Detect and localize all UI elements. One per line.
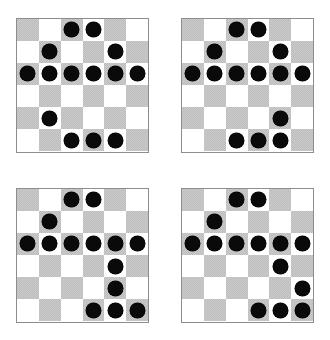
square-r2-c2[interactable]	[204, 41, 226, 63]
square-r5-c2[interactable]	[39, 107, 61, 129]
square-r4-c4[interactable]	[248, 255, 270, 277]
square-r4-c6[interactable]	[126, 255, 148, 277]
square-r3-c5[interactable]	[104, 63, 126, 85]
square-r4-c5[interactable]	[104, 85, 126, 107]
square-r6-c4[interactable]	[83, 299, 105, 321]
black-checker-piece[interactable]	[251, 22, 266, 37]
board-bottom-right[interactable]	[181, 188, 314, 323]
square-r3-c6[interactable]	[126, 233, 148, 255]
board-bottom-left[interactable]	[16, 188, 149, 323]
square-r3-c4[interactable]	[83, 63, 105, 85]
square-r5-c2[interactable]	[39, 277, 61, 299]
square-r4-c3[interactable]	[226, 255, 248, 277]
square-r6-c2[interactable]	[39, 129, 61, 151]
square-r2-c5[interactable]	[269, 41, 291, 63]
square-r6-c6[interactable]	[126, 129, 148, 151]
square-r1-c4[interactable]	[83, 19, 105, 41]
square-r5-c4[interactable]	[83, 107, 105, 129]
square-r4-c3[interactable]	[61, 85, 83, 107]
square-r2-c1[interactable]	[17, 211, 39, 233]
black-checker-piece[interactable]	[86, 66, 101, 81]
square-r2-c5[interactable]	[104, 211, 126, 233]
square-r1-c6[interactable]	[291, 19, 313, 41]
square-r2-c1[interactable]	[17, 41, 39, 63]
square-r4-c4[interactable]	[83, 255, 105, 277]
black-checker-piece[interactable]	[64, 236, 79, 251]
square-r2-c4[interactable]	[248, 41, 270, 63]
square-r3-c1[interactable]	[17, 63, 39, 85]
square-r4-c2[interactable]	[204, 85, 226, 107]
square-r6-c5[interactable]	[269, 129, 291, 151]
square-r3-c4[interactable]	[83, 233, 105, 255]
square-r1-c5[interactable]	[269, 189, 291, 211]
square-r4-c2[interactable]	[39, 255, 61, 277]
black-checker-piece[interactable]	[130, 66, 145, 81]
square-r6-c5[interactable]	[104, 299, 126, 321]
black-checker-piece[interactable]	[108, 44, 123, 59]
black-checker-piece[interactable]	[64, 22, 79, 37]
square-r5-c1[interactable]	[17, 277, 39, 299]
square-r3-c2[interactable]	[204, 63, 226, 85]
square-r5-c2[interactable]	[204, 107, 226, 129]
square-r3-c4[interactable]	[248, 63, 270, 85]
square-r6-c3[interactable]	[226, 129, 248, 151]
black-checker-piece[interactable]	[229, 236, 244, 251]
black-checker-piece[interactable]	[251, 192, 266, 207]
square-r4-c5[interactable]	[269, 255, 291, 277]
square-r4-c1[interactable]	[182, 85, 204, 107]
square-r4-c1[interactable]	[17, 255, 39, 277]
black-checker-piece[interactable]	[108, 281, 123, 296]
black-checker-piece[interactable]	[251, 236, 266, 251]
black-checker-piece[interactable]	[108, 66, 123, 81]
square-r5-c5[interactable]	[104, 107, 126, 129]
square-r2-c2[interactable]	[39, 211, 61, 233]
square-r5-c3[interactable]	[61, 107, 83, 129]
black-checker-piece[interactable]	[273, 44, 288, 59]
square-r5-c5[interactable]	[269, 277, 291, 299]
black-checker-piece[interactable]	[295, 303, 310, 318]
square-r5-c4[interactable]	[248, 277, 270, 299]
square-r2-c6[interactable]	[126, 211, 148, 233]
square-r1-c3[interactable]	[61, 19, 83, 41]
square-r3-c1[interactable]	[182, 233, 204, 255]
square-r6-c2[interactable]	[39, 299, 61, 321]
square-r4-c3[interactable]	[61, 255, 83, 277]
square-r5-c6[interactable]	[291, 107, 313, 129]
square-r5-c4[interactable]	[248, 107, 270, 129]
black-checker-piece[interactable]	[130, 236, 145, 251]
black-checker-piece[interactable]	[207, 214, 222, 229]
square-r6-c1[interactable]	[182, 129, 204, 151]
square-r1-c5[interactable]	[269, 19, 291, 41]
black-checker-piece[interactable]	[108, 303, 123, 318]
square-r4-c6[interactable]	[291, 255, 313, 277]
square-r3-c5[interactable]	[104, 233, 126, 255]
square-r1-c6[interactable]	[291, 189, 313, 211]
square-r6-c4[interactable]	[248, 129, 270, 151]
square-r2-c2[interactable]	[204, 211, 226, 233]
square-r6-c3[interactable]	[226, 299, 248, 321]
square-r4-c4[interactable]	[248, 85, 270, 107]
square-r1-c1[interactable]	[17, 19, 39, 41]
square-r1-c3[interactable]	[61, 189, 83, 211]
square-r2-c4[interactable]	[83, 41, 105, 63]
square-r4-c6[interactable]	[291, 85, 313, 107]
square-r3-c3[interactable]	[61, 233, 83, 255]
board-top-right[interactable]	[181, 18, 314, 153]
black-checker-piece[interactable]	[251, 133, 266, 148]
square-r4-c1[interactable]	[182, 255, 204, 277]
black-checker-piece[interactable]	[108, 236, 123, 251]
square-r2-c1[interactable]	[182, 211, 204, 233]
square-r6-c6[interactable]	[291, 129, 313, 151]
black-checker-piece[interactable]	[229, 66, 244, 81]
square-r1-c3[interactable]	[226, 189, 248, 211]
black-checker-piece[interactable]	[64, 133, 79, 148]
black-checker-piece[interactable]	[229, 22, 244, 37]
square-r2-c3[interactable]	[61, 41, 83, 63]
square-r5-c1[interactable]	[17, 107, 39, 129]
square-r2-c5[interactable]	[104, 41, 126, 63]
square-r6-c4[interactable]	[248, 299, 270, 321]
square-r5-c3[interactable]	[226, 277, 248, 299]
black-checker-piece[interactable]	[20, 236, 35, 251]
square-r6-c4[interactable]	[83, 129, 105, 151]
black-checker-piece[interactable]	[207, 66, 222, 81]
